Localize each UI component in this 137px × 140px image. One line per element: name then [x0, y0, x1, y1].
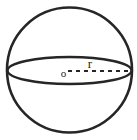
sphere-diagram-canvas: o r [0, 0, 137, 140]
sphere-diagram-svg: o r [0, 0, 137, 140]
radius-label: r [88, 56, 93, 71]
center-point-label: o [61, 67, 67, 79]
